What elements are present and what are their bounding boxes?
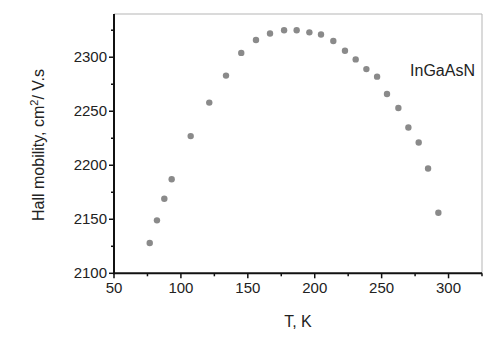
y-tick-label: 2200 bbox=[74, 156, 107, 173]
data-point bbox=[147, 240, 153, 246]
x-axis-label: T, K bbox=[284, 313, 312, 330]
data-point bbox=[405, 124, 411, 130]
data-point bbox=[416, 139, 422, 145]
data-point bbox=[318, 31, 324, 37]
x-tick-label: 150 bbox=[235, 279, 260, 296]
data-point bbox=[238, 50, 244, 56]
data-point bbox=[168, 176, 174, 182]
data-point bbox=[342, 48, 348, 54]
data-point bbox=[293, 27, 299, 33]
data-point bbox=[206, 99, 212, 105]
x-tick-label: 100 bbox=[168, 279, 193, 296]
data-point bbox=[435, 210, 441, 216]
y-tick-label: 2100 bbox=[74, 264, 107, 281]
plot-frame bbox=[113, 14, 482, 274]
data-point bbox=[384, 91, 390, 97]
data-point bbox=[306, 29, 312, 35]
x-tick-label: 50 bbox=[106, 279, 123, 296]
y-tick-label: 2250 bbox=[74, 102, 107, 119]
data-point bbox=[425, 165, 431, 171]
data-point bbox=[161, 196, 167, 202]
data-point bbox=[187, 133, 193, 139]
data-point bbox=[352, 56, 358, 62]
x-tick-label: 200 bbox=[302, 279, 327, 296]
data-point bbox=[253, 37, 259, 43]
data-point bbox=[363, 66, 369, 72]
data-point bbox=[154, 217, 160, 223]
data-point bbox=[223, 72, 229, 78]
y-axis-label: Hall mobility, cm2/ V.s bbox=[28, 69, 47, 221]
hall-mobility-chart: 50100150200250300 21002150220022502300 I… bbox=[0, 0, 502, 346]
data-points bbox=[147, 27, 442, 246]
data-point bbox=[395, 105, 401, 111]
series-annotation: InGaAsN bbox=[410, 62, 475, 79]
data-point bbox=[374, 73, 380, 79]
data-point bbox=[330, 38, 336, 44]
data-point bbox=[281, 27, 287, 33]
y-tick-label: 2150 bbox=[74, 210, 107, 227]
x-tick-label: 300 bbox=[436, 279, 461, 296]
x-tick-label: 250 bbox=[369, 279, 394, 296]
y-tick-labels: 21002150220022502300 bbox=[74, 48, 107, 281]
y-tick-label: 2300 bbox=[74, 48, 107, 65]
x-tick-labels: 50100150200250300 bbox=[106, 279, 461, 296]
data-point bbox=[267, 30, 273, 36]
